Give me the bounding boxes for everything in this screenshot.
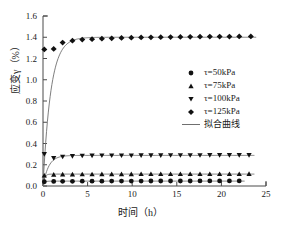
data-point-circle <box>139 179 144 184</box>
legend-item: τ=75kPa <box>178 79 274 92</box>
data-point-triangle-down <box>80 154 85 159</box>
data-point-diamond <box>236 34 242 40</box>
legend-item: τ=100kPa <box>178 92 274 105</box>
x-tick-label: 25 <box>262 190 271 199</box>
data-point-circle <box>80 179 85 184</box>
data-point-circle <box>51 179 56 184</box>
data-point-diamond <box>148 34 154 40</box>
data-point-diamond <box>177 34 183 40</box>
data-point-circle <box>237 179 242 184</box>
legend-label: τ=100kPa <box>204 94 240 103</box>
data-point-triangle-down <box>89 154 94 159</box>
legend-label: τ=125kPa <box>204 107 240 116</box>
data-point-diamond <box>197 34 203 40</box>
y-tick-label: 0.0 <box>2 182 37 191</box>
data-point-circle <box>42 179 47 184</box>
data-point-diamond <box>99 36 105 42</box>
data-point-diamond <box>118 35 124 41</box>
chart-figure: 0.00.20.40.60.81.01.21.41.6 0510152025 时… <box>0 0 281 228</box>
data-point-circle <box>119 179 124 184</box>
data-point-circle <box>158 179 163 184</box>
legend-label: 拟合曲线 <box>204 120 240 129</box>
chart-legend: τ=50kPaτ=75kPaτ=100kPaτ=125kPa拟合曲线 <box>178 66 274 131</box>
data-point-circle <box>189 70 194 75</box>
x-tick-label: 15 <box>172 190 181 199</box>
data-point-diamond <box>158 34 164 40</box>
data-point-diamond <box>187 34 193 40</box>
data-point-diamond <box>109 35 115 41</box>
legend-item: 拟合曲线 <box>178 118 274 131</box>
legend-item: τ=50kPa <box>178 66 274 79</box>
x-axis-label: 时间（h） <box>0 204 281 219</box>
legend-item: τ=125kPa <box>178 105 274 118</box>
x-tick-label: 0 <box>41 190 46 199</box>
data-point-diamond <box>207 34 213 40</box>
data-point-circle <box>149 179 154 184</box>
data-point-diamond <box>69 38 75 44</box>
x-tick-label: 10 <box>128 190 137 199</box>
data-point-circle <box>207 179 212 184</box>
x-tick-label: 20 <box>217 190 226 199</box>
series-diamond <box>41 34 253 53</box>
y-tick-label: 0.2 <box>2 160 37 169</box>
data-point-circle <box>227 179 232 184</box>
data-point-circle <box>217 179 222 184</box>
data-point-circle <box>129 179 134 184</box>
data-point-diamond <box>248 34 254 40</box>
series-triangle-down <box>42 152 252 161</box>
data-point-circle <box>198 179 203 184</box>
data-point-diamond <box>60 40 66 46</box>
data-point-circle <box>168 179 173 184</box>
data-point-circle <box>188 179 193 184</box>
data-point-diamond <box>51 46 57 52</box>
data-point-circle <box>109 179 114 184</box>
data-point-circle <box>90 179 95 184</box>
data-point-triangle-down <box>188 96 193 101</box>
y-tick-label: 0.6 <box>2 118 37 127</box>
data-point-diamond <box>188 109 194 115</box>
data-point-diamond <box>226 34 232 40</box>
fit-line-icon <box>182 124 200 125</box>
legend-marker-circle-icon <box>178 66 204 79</box>
legend-label: τ=50kPa <box>204 68 235 77</box>
data-point-triangle-down <box>70 154 75 159</box>
series-circle <box>42 179 242 185</box>
data-point-triangle-up <box>188 83 193 88</box>
legend-marker-triangle-down-icon <box>178 92 204 105</box>
data-point-triangle-up <box>246 171 251 176</box>
y-axis-label: 应变γ（%） <box>7 18 22 118</box>
legend-marker-diamond-icon <box>178 105 204 118</box>
data-point-diamond <box>128 35 134 41</box>
legend-label: τ=75kPa <box>204 81 235 90</box>
data-point-diamond <box>217 34 223 40</box>
data-point-circle <box>99 179 104 184</box>
data-point-circle <box>60 179 65 184</box>
x-tick-label: 5 <box>85 190 90 199</box>
data-point-diamond <box>41 47 47 53</box>
data-point-diamond <box>168 34 174 40</box>
data-point-circle <box>70 179 75 184</box>
legend-line-swatch <box>178 118 204 131</box>
data-point-circle <box>178 179 183 184</box>
legend-marker-triangle-up-icon <box>178 79 204 92</box>
y-tick-label: 0.4 <box>2 139 37 148</box>
data-point-diamond <box>138 35 144 41</box>
